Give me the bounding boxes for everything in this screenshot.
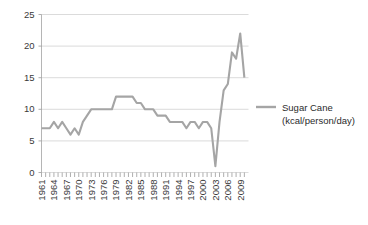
- chart-legend: Sugar Cane(kcal/person/day): [256, 102, 355, 126]
- data-series-group: [42, 33, 245, 166]
- x-tick-label: 1961: [36, 180, 47, 201]
- x-tick-label: 1964: [48, 180, 59, 201]
- x-tick-label: 1988: [148, 180, 159, 201]
- x-tick-label: 1991: [160, 180, 171, 201]
- x-tick-label: 1994: [173, 180, 184, 201]
- x-axis-tickmarks: [42, 173, 245, 178]
- x-tick-label: 1967: [61, 180, 72, 201]
- y-axis-tick-labels: 0510152025: [24, 9, 35, 178]
- y-axis-line: [39, 15, 42, 173]
- y-tick-label: 25: [24, 9, 35, 20]
- y-tick-label: 15: [24, 72, 35, 83]
- y-tick-label: 20: [24, 40, 35, 51]
- legend-sublabel: (kcal/person/day): [282, 115, 355, 126]
- series-line-sugar-cane: [42, 33, 245, 166]
- x-tick-label: 2009: [235, 180, 246, 201]
- y-tick-label: 0: [29, 167, 34, 178]
- x-tick-label: 1973: [86, 180, 97, 201]
- x-tick-label: 2000: [197, 180, 208, 201]
- x-tick-label: 1976: [98, 180, 109, 201]
- x-tick-label: 2003: [210, 180, 221, 201]
- x-tick-label: 1970: [73, 180, 84, 201]
- y-tick-label: 10: [24, 103, 35, 114]
- line-chart: 0510152025 19611964196719701973197619791…: [0, 0, 368, 225]
- x-tick-label: 1997: [185, 180, 196, 201]
- x-axis-tick-labels: 1961196419671970197319761979198219851988…: [36, 180, 246, 201]
- x-tick-label: 1982: [123, 180, 134, 201]
- chart-container: 0510152025 19611964196719701973197619791…: [0, 0, 368, 225]
- x-tick-label: 1979: [110, 180, 121, 201]
- legend-label: Sugar Cane: [282, 102, 333, 113]
- y-tick-label: 5: [29, 135, 34, 146]
- x-tick-label: 1985: [135, 180, 146, 201]
- x-tick-label: 2006: [222, 180, 233, 201]
